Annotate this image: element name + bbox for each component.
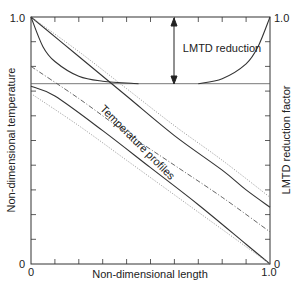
- plot-frame: [31, 17, 270, 264]
- series-line-4: [31, 94, 270, 264]
- y-right-tick-label-1: 1.0: [274, 12, 289, 24]
- data-curves: [31, 17, 270, 264]
- axis-ticks: [31, 17, 270, 264]
- y-right-axis-label: LMTD reduction factor: [280, 85, 292, 194]
- annotation-temperature-profiles: Temperature profiles: [98, 102, 178, 182]
- x-tick-label-0: 0: [28, 266, 34, 278]
- series-line-3: [31, 86, 270, 264]
- y-left-tick-label-0: 0: [19, 258, 25, 270]
- series-line-5: [31, 17, 139, 84]
- chart: 0 1.0 0 1.0 0 1.0 Non-dimensional length…: [0, 0, 304, 292]
- y-left-axis-label: Non-dimensional temperature: [5, 68, 17, 213]
- y-right-tick-label-0: 0: [274, 258, 280, 270]
- lmtd-arrow: [171, 18, 177, 84]
- annotation-lmtd-reduction: LMTD reduction: [183, 42, 261, 54]
- y-left-tick-label-1: 1.0: [10, 12, 25, 24]
- x-axis-label: Non-dimensional length: [92, 268, 208, 280]
